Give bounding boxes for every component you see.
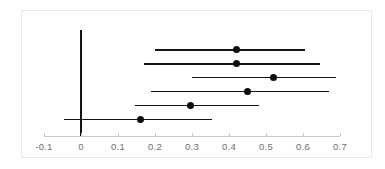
forest-plot-figure: -0.100.10.20.30.40.50.60.7 <box>0 0 385 169</box>
plot-frame <box>21 10 372 158</box>
